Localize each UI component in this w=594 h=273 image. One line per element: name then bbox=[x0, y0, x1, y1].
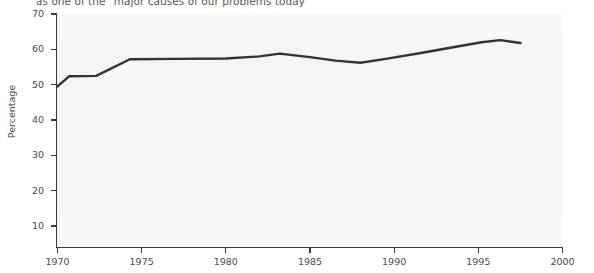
line-chart-figure: as one of the "major causes of our probl… bbox=[0, 0, 594, 273]
data-series-layer bbox=[0, 0, 594, 273]
series-line-percentage bbox=[58, 40, 521, 86]
